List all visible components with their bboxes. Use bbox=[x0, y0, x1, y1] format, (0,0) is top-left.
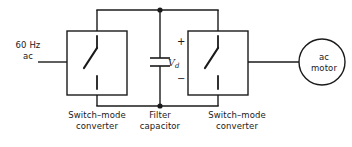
polarity-positive-label: + bbox=[177, 37, 185, 47]
dc-voltage-label: Vd bbox=[168, 57, 179, 70]
dc-voltage-subscript: d bbox=[175, 62, 179, 70]
dc-bus-negative-left bbox=[96, 95, 160, 106]
ac-source-label: 60 Hz ac bbox=[2, 40, 54, 62]
dc-bus-negative-right bbox=[160, 95, 219, 106]
dc-bus-positive-right bbox=[160, 10, 219, 31]
ac-motor-label: ac motor bbox=[300, 52, 348, 74]
filter-capacitor bbox=[150, 10, 170, 106]
right-converter-label: Switch–mode converter bbox=[182, 110, 292, 132]
circuit-diagram: 60 Hz ac Switch–mode converter Filter ca… bbox=[0, 0, 352, 147]
left-converter-block bbox=[67, 31, 127, 95]
dc-bus-positive-left bbox=[96, 10, 160, 31]
right-converter-block bbox=[188, 31, 248, 95]
polarity-negative-label: − bbox=[177, 74, 185, 84]
dc-voltage-symbol: V bbox=[168, 57, 175, 68]
